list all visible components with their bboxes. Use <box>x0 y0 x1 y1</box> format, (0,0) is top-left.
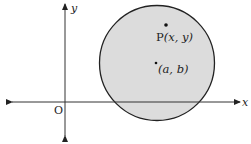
circle-diagram: y x O P(x, y) (a, b) <box>0 0 251 144</box>
point-p-coords: (x, y) <box>164 30 193 44</box>
center-label: (a, b) <box>158 62 189 76</box>
origin-label: O <box>54 104 63 117</box>
point-p-label: P(x, y) <box>156 30 193 44</box>
point-p-dot <box>164 23 168 27</box>
y-axis-label: y <box>70 2 78 15</box>
diagram-canvas: y x O P(x, y) (a, b) <box>0 0 251 144</box>
center-dot <box>155 62 158 65</box>
x-axis-label: x <box>242 96 249 109</box>
